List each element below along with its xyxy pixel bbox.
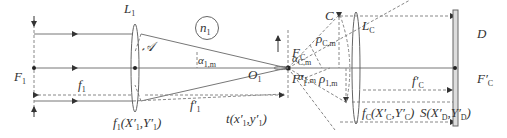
label-f1: f1 (78, 78, 86, 94)
label-rho-Cm: ρC,m (316, 32, 336, 48)
label-t-coords: t(x′1,y′1) (226, 112, 267, 128)
label-L1: L1 (124, 2, 135, 18)
label-FC-prime: F′C (477, 72, 493, 88)
label-F1: F1 (14, 70, 26, 86)
label-alpha-Cm: αC,m (292, 53, 311, 67)
label-LC: LC (362, 19, 375, 35)
label-alpha-1m-top: α1,m (198, 55, 216, 69)
label-f1-coords: f1(X′1,Y′1) (113, 116, 161, 132)
label-O1: O1 (248, 68, 261, 84)
label-f1-prime: f′1 (190, 98, 200, 114)
label-C: C (325, 9, 334, 22)
label-alpha-1m-bottom: α1,m (298, 71, 316, 85)
label-S-coords: S(X′D,Y′D) (420, 106, 471, 122)
optical-diagram: L1 𝒜 n1 F1 f1 f′1 α1,m O1 FC F′1 αC,m α1… (0, 0, 507, 138)
label-fC-prime: f′C (412, 74, 424, 90)
label-aperture-A: 𝒜 (142, 40, 154, 53)
label-rho-1m: ρ1,m (319, 72, 337, 88)
label-fC-coords: fC(X′C,Y′C) (362, 106, 414, 122)
label-n1: n1 (200, 21, 211, 37)
label-D: D (477, 27, 486, 40)
